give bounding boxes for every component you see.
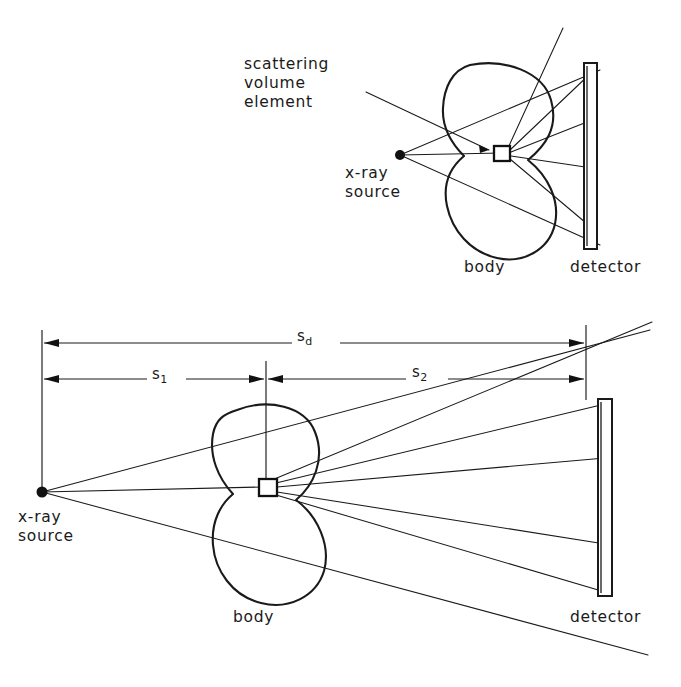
detector-label-upper: detector xyxy=(570,258,641,277)
dimension-symbol-s1: s xyxy=(152,365,160,383)
scattered-ray-upper-1 xyxy=(510,72,592,150)
upper-panel-group xyxy=(366,28,600,259)
scattering-volume-element-label: scattering volume element xyxy=(244,55,329,112)
scattered-ray-upper-4 xyxy=(510,159,592,228)
figure-root: scattering volume element x-ray source b… xyxy=(0,0,681,687)
primary-ray-upper-center xyxy=(400,153,502,155)
scattered-ray-lower-1 xyxy=(276,404,605,483)
dimension-subscript-s2: 2 xyxy=(420,371,427,384)
lower-panel-group xyxy=(37,322,653,655)
dimension-arrowhead-sd-right xyxy=(569,339,584,347)
body-label-lower: body xyxy=(233,608,274,627)
dimension-arrowhead-s2-right xyxy=(569,375,584,383)
scattering-volume-element-lower xyxy=(259,479,277,496)
primary-ray-lower-bottom xyxy=(42,492,648,655)
dimension-label-s1: s1 xyxy=(152,365,167,386)
dimension-arrowhead-sd-left xyxy=(44,339,59,347)
dimension-symbol-s2: s xyxy=(412,363,420,381)
primary-ray-upper-top xyxy=(400,70,600,155)
xray-source-dot-upper xyxy=(395,150,405,160)
detector-plate-lower xyxy=(598,399,612,596)
body-label-upper: body xyxy=(464,258,505,277)
dimension-symbol-sd: s xyxy=(297,327,305,345)
primary-ray-lower-top xyxy=(42,330,650,492)
scattered-ray-lower-5 xyxy=(272,322,652,480)
dimension-arrowhead-s2-left xyxy=(268,375,283,383)
dimension-subscript-s1: 1 xyxy=(160,373,167,386)
xray-source-label-upper: x-ray source xyxy=(345,164,401,202)
dimension-label-sd: sd xyxy=(297,327,312,348)
scattered-ray-lower-2 xyxy=(277,458,605,487)
diagram-canvas xyxy=(0,0,681,687)
scattered-ray-upper-5 xyxy=(508,28,563,148)
dimension-arrowhead-s1-left xyxy=(44,375,59,383)
detector-label-lower: detector xyxy=(570,608,641,627)
dimension-subscript-sd: d xyxy=(305,335,312,348)
xray-source-dot-lower xyxy=(37,487,48,498)
scattering-volume-element-upper xyxy=(494,146,510,161)
scattered-ray-upper-3 xyxy=(511,156,592,168)
dimension-arrowhead-s1-right xyxy=(249,375,264,383)
xray-source-label-lower: x-ray source xyxy=(18,508,74,546)
leader-line-scattering-element xyxy=(366,92,489,150)
scattered-ray-lower-3 xyxy=(277,492,605,544)
primary-ray-upper-bottom xyxy=(400,155,600,245)
detector-plate-upper xyxy=(584,63,597,249)
dimension-label-s2: s2 xyxy=(412,363,427,384)
